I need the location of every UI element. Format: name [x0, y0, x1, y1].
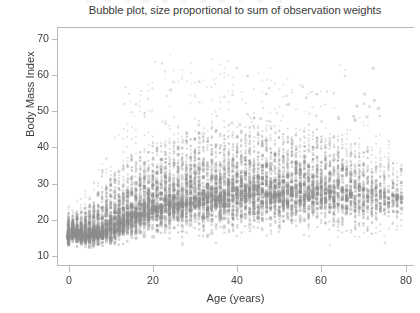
x-tick-label: 40 — [222, 275, 252, 286]
x-tick-mark — [406, 266, 407, 272]
y-axis-title: Body Mass Index — [24, 14, 36, 174]
chart-figure: Bubble plot, size proportional to sum of… — [0, 0, 420, 313]
x-tick-mark — [153, 266, 154, 272]
y-tick-mark — [52, 256, 58, 257]
y-tick-label-wrap: 10 — [21, 250, 49, 261]
y-tick-mark — [52, 220, 58, 221]
plot-area — [58, 28, 414, 265]
x-tick-label: 60 — [306, 275, 336, 286]
y-tick-mark — [52, 75, 58, 76]
x-tick-label: 80 — [391, 275, 420, 286]
plot-frame-bottom-axis — [57, 265, 414, 266]
x-tick-label: 0 — [54, 275, 84, 286]
y-tick-mark — [52, 39, 58, 40]
y-tick-mark — [52, 111, 58, 112]
y-tick-mark — [52, 184, 58, 185]
x-tick-mark — [321, 266, 322, 272]
x-axis-title: Age (years) — [57, 292, 414, 304]
y-tick-label: 30 — [23, 178, 49, 188]
y-tick-label: 20 — [23, 214, 49, 224]
x-tick-label: 20 — [138, 275, 168, 286]
y-tick-label-wrap: 20 — [21, 214, 49, 225]
x-tick-mark — [69, 266, 70, 272]
y-tick-mark — [52, 147, 58, 148]
clipped-text-artifact — [86, 0, 286, 3]
chart-title: Bubble plot, size proportional to sum of… — [57, 4, 413, 20]
bubble-scatter-canvas — [58, 28, 414, 265]
y-tick-label: 10 — [23, 250, 49, 260]
y-tick-label-wrap: 30 — [21, 178, 49, 189]
x-tick-mark — [237, 266, 238, 272]
